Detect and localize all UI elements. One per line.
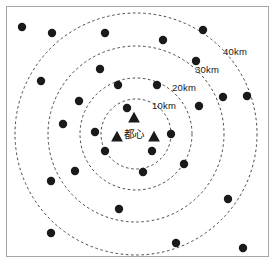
location-dot (195, 102, 203, 110)
location-dot (199, 26, 207, 34)
city-center-marker-east (148, 131, 160, 142)
location-dot (239, 244, 247, 252)
ring-label-20km: 20km (172, 83, 196, 93)
location-dot (75, 97, 83, 105)
location-dot (48, 29, 56, 37)
location-dot (153, 81, 161, 89)
city-center-label: 都心 (124, 129, 144, 140)
location-dot (101, 147, 109, 155)
location-dot (219, 93, 227, 101)
location-dot (148, 147, 156, 155)
location-dot (243, 92, 251, 100)
location-dot (172, 239, 180, 247)
location-dot (139, 168, 147, 176)
location-dot (180, 160, 188, 168)
location-dot (59, 120, 67, 128)
ring-label-30km: 30km (195, 65, 219, 75)
ring-label-10km: 10km (152, 101, 176, 111)
distance-ring-map-figure: 10km 20km 30km 40km 都心 (0, 0, 277, 267)
location-dot (37, 77, 45, 85)
location-dot (224, 195, 232, 203)
location-dot (159, 36, 167, 44)
location-dot (18, 23, 26, 31)
location-dot (47, 229, 55, 237)
location-dot (71, 167, 79, 175)
location-dot (115, 205, 123, 213)
location-dot (91, 128, 99, 136)
location-dot (123, 104, 131, 112)
city-center-marker-north (128, 112, 140, 123)
location-dot (114, 81, 122, 89)
location-dot (167, 130, 175, 138)
location-dot (101, 29, 109, 37)
location-dot (96, 65, 104, 73)
location-dot (47, 177, 55, 185)
ring-label-40km: 40km (223, 47, 247, 57)
city-center-marker-west (111, 131, 123, 142)
